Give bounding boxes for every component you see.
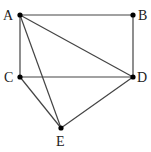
edge-AE [20,15,61,128]
edge-CE [20,77,61,128]
label-C: C [4,70,13,85]
label-E: E [56,134,65,149]
point-A [17,12,22,17]
points [17,12,135,130]
graph-diagram: ABCDE [0,0,151,152]
label-D: D [137,70,147,85]
point-C [17,74,22,79]
label-B: B [138,8,147,23]
point-D [130,74,135,79]
point-E [58,125,63,130]
edges [20,15,133,128]
edge-DE [61,77,133,128]
label-A: A [3,8,14,23]
edge-AD [20,15,133,77]
point-B [130,12,135,17]
